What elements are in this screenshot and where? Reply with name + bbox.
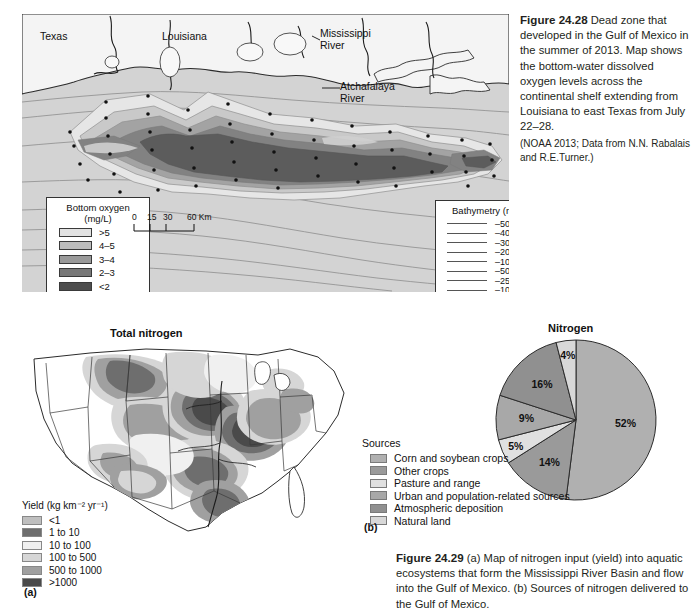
yield-legend-label: 100 to 500 bbox=[49, 552, 96, 563]
oxygen-legend-title-line2: (mg/L) bbox=[53, 213, 143, 224]
oxygen-legend-swatch bbox=[59, 255, 92, 264]
figure-page: Texas Louisiana Mississippi River Atchaf… bbox=[0, 0, 696, 615]
oxygen-legend-item: 2–3 bbox=[53, 267, 143, 278]
sources-legend-item: Atmospheric deposition bbox=[362, 502, 602, 515]
bathymetry-legend: Bathymetry (m) –500–400–300–200–100–50–2… bbox=[435, 200, 509, 292]
sources-legend-swatch bbox=[370, 491, 387, 500]
scale-tick-15: 15 bbox=[147, 212, 156, 222]
sources-legend-item: Urban and population-related sources bbox=[362, 490, 602, 503]
yield-legend-swatch bbox=[22, 553, 42, 562]
bathymetry-legend-item: –100 bbox=[441, 257, 509, 267]
oxygen-legend-item: 4–5 bbox=[53, 240, 143, 251]
figure-2429-number: Figure 24.29 bbox=[396, 551, 464, 564]
yield-legend-swatch bbox=[22, 516, 42, 525]
yield-legend-label: 10 to 100 bbox=[49, 540, 91, 551]
scale-bar-ticks: 0 15 30 60 Km bbox=[132, 212, 228, 223]
figure-2428-caption-text: Dead zone that developed in the Gulf of … bbox=[520, 14, 689, 132]
oxygen-legend-item: <2 bbox=[53, 281, 143, 292]
oxygen-legend-swatch bbox=[59, 268, 92, 277]
yield-legend-item: >1000 bbox=[22, 577, 182, 590]
oxygen-legend-label: 4–5 bbox=[99, 240, 115, 251]
bathymetry-contour-line bbox=[447, 233, 487, 234]
sources-legend-label: Pasture and range bbox=[394, 477, 480, 489]
bathymetry-legend-title: Bathymetry (m) bbox=[441, 205, 509, 216]
bathymetry-legend-item: –500 bbox=[441, 219, 509, 229]
yield-legend-title: Yield (kg km⁻² yr⁻¹) bbox=[22, 500, 182, 511]
scale-tick-60: 60 Km bbox=[187, 212, 212, 222]
yield-legend-rows: <11 to 1010 to 100100 to 500500 to 1000>… bbox=[22, 514, 182, 589]
bathymetry-legend-label: –500 bbox=[495, 219, 509, 229]
oxygen-legend-item: 3–4 bbox=[53, 254, 143, 265]
yield-legend-swatch bbox=[22, 566, 42, 575]
oxygen-legend-swatch bbox=[59, 282, 92, 291]
figure-2428-caption: Figure 24.28 Dead zone that developed in… bbox=[520, 12, 692, 165]
pie-slice-label: 4% bbox=[560, 349, 576, 361]
scale-bar-graphic bbox=[132, 223, 228, 233]
map-scale-bar: 0 15 30 60 Km bbox=[132, 212, 228, 233]
sources-legend-label: Corn and soybean crops bbox=[394, 452, 508, 464]
figure-2429-caption: Figure 24.29 (a) Map of nitrogen input (… bbox=[396, 550, 692, 615]
scale-tick-0: 0 bbox=[132, 212, 137, 222]
bathymetry-legend-label: –100 bbox=[495, 257, 509, 267]
yield-legend-label: >1000 bbox=[49, 577, 77, 588]
yield-legend: Yield (kg km⁻² yr⁻¹) <11 to 1010 to 1001… bbox=[22, 500, 182, 589]
oxygen-legend-label: <2 bbox=[99, 281, 110, 292]
sources-legend-label: Natural land bbox=[394, 515, 451, 527]
yield-legend-swatch bbox=[22, 528, 42, 537]
oxygen-legend-label: 2–3 bbox=[99, 267, 115, 278]
sources-legend-item: Corn and soybean crops bbox=[362, 452, 602, 465]
pie-slice-label: 9% bbox=[519, 412, 535, 424]
bathymetry-contour-line bbox=[447, 261, 487, 262]
pie-slice-label: 16% bbox=[532, 378, 554, 390]
map-label-atchafalaya-river: Atchafalaya River bbox=[340, 80, 395, 104]
yield-legend-item: 500 to 1000 bbox=[22, 564, 182, 577]
panel-label-a: (a) bbox=[24, 586, 37, 598]
sources-legend-swatch bbox=[370, 479, 387, 488]
oxygen-legend-item: >5 bbox=[53, 227, 143, 238]
map-label-louisiana: Louisiana bbox=[162, 30, 207, 42]
scale-tick-30: 30 bbox=[163, 212, 172, 222]
sources-legend-item: Other crops bbox=[362, 465, 602, 478]
sources-legend-swatch bbox=[370, 504, 387, 513]
gulf-dead-zone-map: Texas Louisiana Mississippi River Atchaf… bbox=[22, 14, 509, 292]
sources-legend-rows: Corn and soybean cropsOther cropsPasture… bbox=[362, 452, 602, 527]
bathymetry-legend-item: –50 bbox=[441, 267, 509, 277]
pie-slice-label: 52% bbox=[615, 417, 637, 429]
bathymetry-legend-item: –300 bbox=[441, 238, 509, 248]
oxygen-legend-title-line1: Bottom oxygen bbox=[53, 202, 143, 213]
bathymetry-legend-label: –200 bbox=[495, 247, 509, 257]
oxygen-legend-label: >5 bbox=[99, 227, 110, 238]
oxygen-legend-swatch bbox=[59, 241, 92, 250]
bathymetry-legend-label: –400 bbox=[495, 228, 509, 238]
sources-legend-swatch bbox=[370, 454, 387, 463]
bathymetry-legend-label: –10 bbox=[495, 285, 509, 292]
bathymetry-legend-item: –400 bbox=[441, 229, 509, 239]
bathymetry-legend-label: –50 bbox=[495, 266, 509, 276]
yield-legend-item: 1 to 10 bbox=[22, 527, 182, 540]
bathymetry-contour-line bbox=[447, 223, 487, 224]
yield-legend-swatch bbox=[22, 541, 42, 550]
bathymetry-contour-line bbox=[447, 290, 487, 291]
sources-legend-swatch bbox=[370, 466, 387, 475]
yield-legend-label: 1 to 10 bbox=[49, 527, 80, 538]
bathymetry-legend-label: –300 bbox=[495, 238, 509, 248]
figure-2428-number: Figure 24.28 bbox=[520, 13, 588, 26]
sources-legend: Sources Corn and soybean cropsOther crop… bbox=[362, 437, 602, 527]
yield-legend-item: 100 to 500 bbox=[22, 552, 182, 565]
yield-legend-label: 500 to 1000 bbox=[49, 565, 102, 576]
panel-label-b: (b) bbox=[364, 521, 377, 533]
map-label-mississippi-river: Mississippi River bbox=[320, 27, 371, 51]
map-label-texas: Texas bbox=[40, 30, 67, 42]
yield-legend-item: 10 to 100 bbox=[22, 539, 182, 552]
bathymetry-legend-rows: –500–400–300–200–100–50–25–10 bbox=[441, 219, 509, 292]
bathymetry-legend-label: –25 bbox=[495, 276, 509, 286]
figure-2428-source: (NOAA 2013; Data from N.N. Rabalais and … bbox=[520, 137, 692, 165]
bathymetry-contour-line bbox=[447, 242, 487, 243]
sources-legend-label: Other crops bbox=[394, 465, 449, 477]
sources-legend-label: Urban and population-related sources bbox=[394, 490, 570, 502]
bathymetry-legend-item: –10 bbox=[441, 286, 509, 293]
oxygen-legend-label: 3–4 bbox=[99, 254, 115, 265]
bathymetry-contour-line bbox=[447, 252, 487, 253]
sources-legend-title: Sources bbox=[362, 437, 602, 449]
bathymetry-contour-line bbox=[447, 280, 487, 281]
